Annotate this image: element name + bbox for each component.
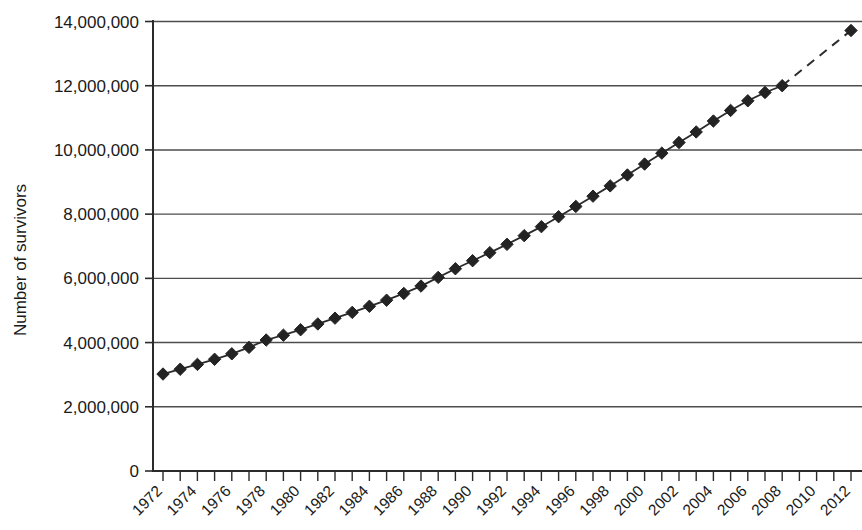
- data-point-marker: [157, 368, 169, 380]
- data-point-marker: [191, 358, 203, 370]
- data-point-marker: [759, 86, 771, 98]
- data-point-marker: [312, 318, 324, 330]
- x-tick-label: 1996: [542, 482, 578, 518]
- data-point-marker: [656, 147, 668, 159]
- data-point-marker: [724, 104, 736, 116]
- y-tick-labels: 02,000,0004,000,0006,000,0008,000,00010,…: [54, 13, 139, 482]
- x-tick-label: 2002: [645, 482, 681, 518]
- data-point-marker: [570, 200, 582, 212]
- x-tick-label: 1976: [198, 482, 234, 518]
- x-tick-label: 1982: [301, 482, 337, 518]
- data-point-marker: [432, 271, 444, 283]
- y-tick-label: 6,000,000: [63, 269, 139, 288]
- x-tick-label: 1992: [473, 482, 509, 518]
- x-tick-label: 1994: [507, 482, 544, 519]
- x-tick-label: 1998: [576, 482, 612, 518]
- data-point-marker: [208, 353, 220, 365]
- data-point-marker: [587, 190, 599, 202]
- data-point-marker: [707, 115, 719, 127]
- x-tick-label: 1988: [404, 482, 440, 518]
- series-line-projected: [782, 30, 851, 85]
- data-point-marker: [552, 211, 564, 223]
- x-tick-labels: 1972197419761978198019821984198619881990…: [129, 482, 853, 519]
- x-tick-label: 2010: [782, 482, 819, 519]
- chart-canvas: 02,000,0004,000,0006,000,0008,000,00010,…: [0, 0, 862, 530]
- data-point-marker: [346, 306, 358, 318]
- data-point-marker: [501, 238, 513, 250]
- data-point-marker: [484, 246, 496, 258]
- data-point-marker: [466, 254, 478, 266]
- data-series: [163, 30, 851, 374]
- data-point-marker: [363, 300, 375, 312]
- x-tick-label: 2008: [748, 482, 784, 518]
- x-tick-label: 1974: [163, 482, 200, 519]
- x-tick-label: 1990: [438, 482, 475, 519]
- data-point-marker: [398, 287, 410, 299]
- series-line-solid: [163, 86, 782, 374]
- data-point-marker: [226, 348, 238, 360]
- data-point-marker: [449, 263, 461, 275]
- data-point-marker: [174, 363, 186, 375]
- y-tick-marks: [145, 22, 153, 472]
- x-tick-label: 1984: [335, 482, 372, 519]
- x-tick-label: 2006: [714, 482, 750, 518]
- y-tick-label: 12,000,000: [54, 77, 139, 96]
- data-point-marker: [260, 334, 272, 346]
- survivors-line-chart: 02,000,0004,000,0006,000,0008,000,00010,…: [0, 0, 862, 530]
- data-point-marker: [277, 329, 289, 341]
- data-point-marker: [380, 294, 392, 306]
- data-point-marker: [535, 220, 547, 232]
- x-tick-label: 2004: [679, 482, 716, 519]
- y-tick-label: 4,000,000: [63, 334, 139, 353]
- x-tick-label: 1986: [370, 482, 406, 518]
- data-point-marker: [621, 169, 633, 181]
- data-point-marker: [294, 324, 306, 336]
- y-tick-label: 0: [130, 462, 139, 481]
- data-point-marker: [690, 126, 702, 138]
- x-tick-label: 1972: [129, 482, 165, 518]
- data-point-marker: [742, 95, 754, 107]
- data-point-marker: [604, 180, 616, 192]
- x-tick-label: 2012: [817, 482, 853, 518]
- x-tick-marks: [163, 471, 851, 481]
- gridlines: [153, 22, 862, 407]
- data-point-marker: [518, 229, 530, 241]
- data-markers: [157, 24, 857, 380]
- data-point-marker: [415, 280, 427, 292]
- y-tick-label: 8,000,000: [63, 205, 139, 224]
- y-tick-label: 2,000,000: [63, 398, 139, 417]
- y-axis-title: Number of survivors: [11, 184, 30, 336]
- x-tick-label: 2000: [610, 482, 647, 519]
- x-tick-label: 1980: [266, 482, 303, 519]
- x-tick-label: 1978: [232, 482, 268, 518]
- data-point-marker: [638, 158, 650, 170]
- y-tick-label: 14,000,000: [54, 13, 139, 32]
- data-point-marker: [329, 312, 341, 324]
- data-point-marker: [673, 136, 685, 148]
- y-tick-label: 10,000,000: [54, 141, 139, 160]
